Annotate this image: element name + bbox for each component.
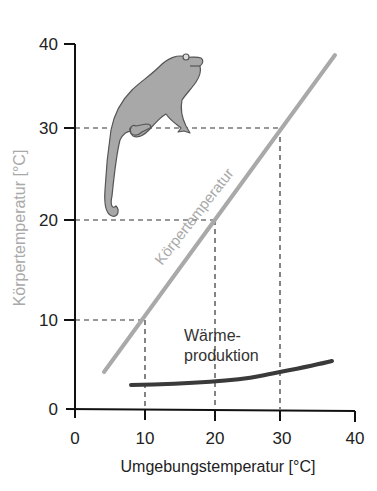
x-tick-40: 40: [346, 429, 365, 448]
heat-production-label-1: Wärme-: [184, 327, 241, 344]
heat-production-curve: [131, 361, 332, 385]
y-tick-10: 10: [39, 311, 58, 330]
heat-production-label-2: produktion: [184, 347, 259, 364]
x-axis-label: Umgebungstemperatur [°C]: [121, 458, 316, 475]
chameleon-illustration: [105, 54, 203, 216]
y-axis-label: Körpertemperatur [°C]: [11, 150, 28, 307]
y-tick-30: 30: [39, 119, 58, 138]
x-tick-0: 0: [70, 429, 79, 448]
x-tick-10: 10: [136, 429, 155, 448]
y-tick-20: 20: [39, 211, 58, 230]
y-tick-0: 0: [49, 400, 58, 419]
y-tick-40: 40: [39, 35, 58, 54]
body-temperature-label: Körpertemperatur: [151, 165, 237, 268]
chart: 40 30 20 10 0 0 10 20 30 40 Umgebungstem…: [0, 0, 377, 491]
x-tick-20: 20: [206, 429, 225, 448]
x-tick-30: 30: [273, 429, 292, 448]
